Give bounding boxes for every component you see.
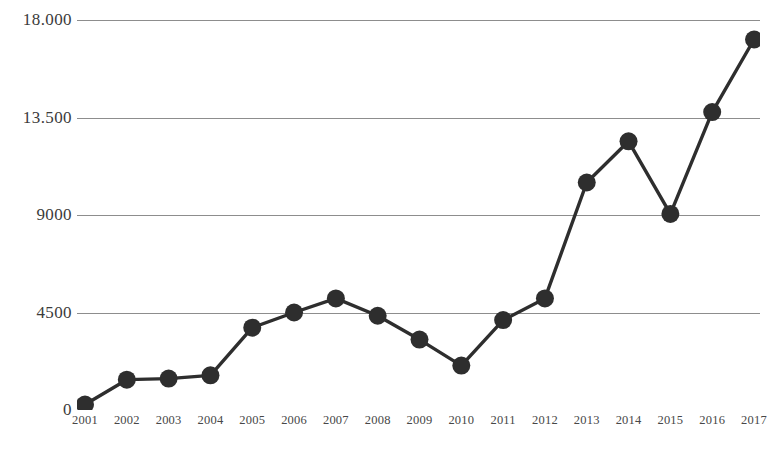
data-point-2008[interactable] xyxy=(369,307,387,325)
x-tick-label-2011: 2011 xyxy=(490,413,515,428)
chart-canvas xyxy=(77,20,760,410)
data-point-2014[interactable] xyxy=(620,132,638,150)
y-tick-label-13.500: 13.500 xyxy=(23,108,72,128)
y-tick-label-9000: 9000 xyxy=(36,205,72,225)
y-tick-label-18.000: 18.000 xyxy=(23,10,72,30)
x-tick-label-2012: 2012 xyxy=(532,413,558,428)
data-point-2004[interactable] xyxy=(201,366,219,384)
x-tick-label-2017: 2017 xyxy=(741,413,767,428)
x-tick-label-2002: 2002 xyxy=(114,413,140,428)
x-tick-label-2008: 2008 xyxy=(365,413,391,428)
data-point-2009[interactable] xyxy=(411,331,429,349)
data-point-2015[interactable] xyxy=(661,205,679,223)
gridlines xyxy=(77,21,760,411)
data-point-2011[interactable] xyxy=(494,311,512,329)
data-point-2005[interactable] xyxy=(243,319,261,337)
x-tick-label-2005: 2005 xyxy=(239,413,265,428)
data-point-2006[interactable] xyxy=(285,304,303,322)
data-point-2013[interactable] xyxy=(578,174,596,192)
y-axis: 04500900013.50018.000 xyxy=(0,20,72,410)
data-point-2001[interactable] xyxy=(77,396,94,410)
data-point-2003[interactable] xyxy=(160,370,178,388)
x-tick-label-2001: 2001 xyxy=(72,413,98,428)
x-tick-label-2006: 2006 xyxy=(281,413,307,428)
x-tick-label-2010: 2010 xyxy=(448,413,474,428)
data-point-2012[interactable] xyxy=(536,289,554,307)
line-chart: 04500900013.50018.000 200120022003200420… xyxy=(0,0,780,459)
x-tick-label-2003: 2003 xyxy=(156,413,182,428)
data-point-2002[interactable] xyxy=(118,371,136,389)
x-tick-label-2007: 2007 xyxy=(323,413,349,428)
x-tick-label-2009: 2009 xyxy=(407,413,433,428)
x-tick-label-2016: 2016 xyxy=(699,413,725,428)
x-tick-label-2004: 2004 xyxy=(198,413,224,428)
plot-area xyxy=(77,20,760,410)
data-point-2017[interactable] xyxy=(745,31,760,49)
series-markers xyxy=(77,31,760,411)
data-point-2007[interactable] xyxy=(327,289,345,307)
series-line xyxy=(85,40,754,405)
y-tick-label-4500: 4500 xyxy=(36,303,72,323)
x-axis: 2001200220032004200520062007200820092010… xyxy=(77,413,760,439)
x-tick-label-2014: 2014 xyxy=(616,413,642,428)
x-tick-label-2015: 2015 xyxy=(657,413,683,428)
y-tick-label-0: 0 xyxy=(63,400,72,420)
data-point-2010[interactable] xyxy=(452,357,470,375)
x-tick-label-2013: 2013 xyxy=(574,413,600,428)
data-point-2016[interactable] xyxy=(703,103,721,121)
